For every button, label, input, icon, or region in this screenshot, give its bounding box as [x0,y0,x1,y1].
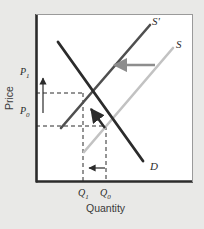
supply-demand-chart: S' S D P1 P0 Q1 Q0 Quantity Price [0,0,204,229]
curve-label-d: D [149,160,158,172]
plot-area [36,14,193,182]
curve-label-s-prime: S' [152,15,161,27]
x-axis-title: Quantity [86,202,126,214]
y-axis-title: Price [3,86,15,110]
supply-demand-figure: S' S D P1 P0 Q1 Q0 Quantity Price [0,0,204,229]
curve-label-s: S [176,38,182,50]
